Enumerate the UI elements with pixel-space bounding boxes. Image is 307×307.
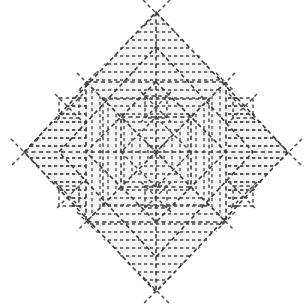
quilt-block-diagram: Dashed diamond quilt block bbox=[0, 0, 307, 307]
